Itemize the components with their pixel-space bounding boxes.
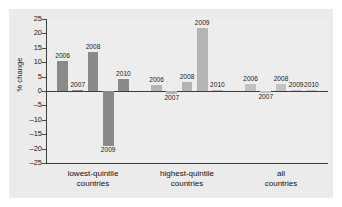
bar-year-label: 2010 — [299, 82, 324, 89]
bar-year-label: 2010 — [205, 82, 230, 89]
x-group-label: lowest-quintilecountries — [46, 169, 140, 189]
bar-year-label: 2006 — [50, 53, 75, 60]
bar — [151, 85, 162, 91]
y-axis-tick-labels: 2520151050–5–10–15–20–25 — [8, 0, 42, 207]
bar — [245, 84, 256, 91]
x-group-label: highest-quintilecountries — [140, 169, 234, 189]
y-tick-label: 25 — [12, 15, 42, 23]
y-tick-label: –25 — [12, 159, 42, 167]
y-tick-label: –5 — [12, 102, 42, 110]
bar — [291, 90, 302, 91]
x-group-label: allcountries — [234, 169, 328, 189]
y-tick-label: –20 — [12, 145, 42, 153]
y-tick-label: 5 — [12, 73, 42, 81]
chart-figure: % change 2520151050–5–10–15–20–25 200620… — [0, 0, 342, 207]
bar — [103, 91, 114, 146]
y-tick-label: 20 — [12, 30, 42, 38]
bar — [72, 90, 83, 91]
bar — [182, 82, 193, 91]
bar-year-label: 2009 — [190, 20, 215, 27]
zero-baseline — [46, 91, 328, 92]
bar — [306, 90, 317, 91]
y-tick-label: –15 — [12, 130, 42, 138]
bar-year-label: 2006 — [238, 76, 263, 83]
bar — [212, 90, 223, 91]
x-axis-spine — [46, 163, 328, 164]
bar-year-label: 2006 — [144, 77, 169, 84]
bar-year-label: 2007 — [159, 95, 184, 102]
bar-year-label: 2009 — [96, 147, 121, 154]
bar-year-label: 2008 — [80, 44, 105, 51]
y-tick-label: 15 — [12, 44, 42, 52]
bar — [118, 79, 129, 91]
bar-year-label: 2007 — [253, 94, 278, 101]
y-tick-label: –10 — [12, 116, 42, 124]
bar-year-label: 2010 — [111, 71, 136, 78]
y-tick-label: 0 — [12, 87, 42, 95]
y-tick-label: 10 — [12, 58, 42, 66]
bar — [88, 52, 99, 91]
